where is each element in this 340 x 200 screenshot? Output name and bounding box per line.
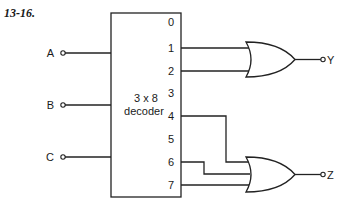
wire-output-6 — [181, 162, 250, 174]
input-b-terminal-icon — [61, 103, 65, 107]
decoder-output-5-label: 5 — [168, 133, 174, 145]
wire-output-4 — [181, 116, 250, 162]
input-a: A — [47, 47, 111, 59]
decoder-output-7-label: 7 — [168, 179, 174, 191]
decoder-label-type: decoder — [124, 105, 164, 117]
decoder-output-3-label: 3 — [168, 87, 174, 99]
input-c-label: C — [46, 151, 54, 163]
decoder-output-4-label: 4 — [168, 110, 174, 122]
decoder-output-0-label: 0 — [168, 16, 174, 28]
input-b: B — [47, 99, 111, 111]
output-z-label: Z — [327, 169, 334, 181]
input-a-terminal-icon — [61, 51, 65, 55]
or-gate-z-icon — [246, 157, 295, 192]
or-gate-y-icon — [246, 42, 295, 77]
input-a-label: A — [47, 47, 55, 59]
decoder-output-1-label: 1 — [168, 42, 174, 54]
decoder-output-2-label: 2 — [168, 65, 174, 77]
decoder-output-6-label: 6 — [168, 156, 174, 168]
decoder-label-size: 3 x 8 — [134, 92, 158, 104]
decoder-circuit-diagram: 3 x 8 decoder 0 1 2 3 4 5 6 7 A B C Y Z — [0, 0, 340, 200]
output-y-terminal-icon — [321, 57, 325, 61]
output-z-terminal-icon — [321, 172, 325, 176]
input-c: C — [46, 151, 111, 163]
output-y-label: Y — [327, 54, 335, 66]
input-c-terminal-icon — [61, 155, 65, 159]
input-b-label: B — [47, 99, 54, 111]
